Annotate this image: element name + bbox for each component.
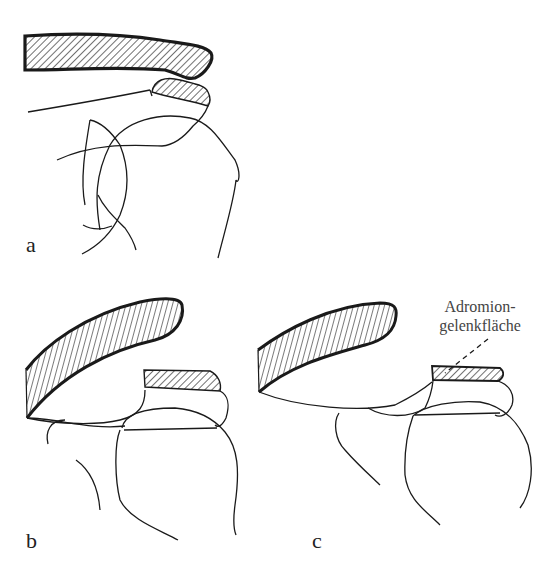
articular-facet-c bbox=[432, 366, 503, 381]
acromion-a bbox=[25, 34, 212, 78]
panel-label-a: a bbox=[26, 232, 36, 258]
annotation-label: Adromion- gelenkfläche bbox=[420, 297, 540, 335]
articular-facet-a bbox=[152, 79, 210, 107]
panel-label-c: c bbox=[312, 528, 322, 554]
panel-a-drawing bbox=[25, 34, 239, 258]
shoulder-joint-diagram bbox=[0, 0, 550, 572]
panel-c-drawing bbox=[258, 303, 531, 525]
panel-label-b: b bbox=[26, 528, 37, 554]
articular-facet-b bbox=[144, 370, 221, 391]
annotation-line-2: gelenkfläche bbox=[420, 316, 540, 335]
annotation-line-1: Adromion- bbox=[420, 297, 540, 316]
panel-b-drawing bbox=[26, 299, 238, 540]
